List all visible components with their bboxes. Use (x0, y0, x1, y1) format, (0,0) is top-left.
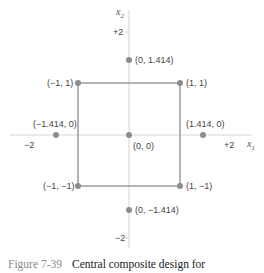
ccd-diagram (0, 0, 264, 273)
point-axial-left (53, 132, 59, 138)
label-corner-tl: (−1, 1) (47, 78, 73, 88)
point-corner-tr (177, 80, 183, 86)
tick-label-y-plus2: +2 (113, 27, 123, 37)
tick-label-y-minus2: −2 (115, 233, 125, 243)
x2-axis-label: x2 (116, 6, 124, 20)
label-axial-bottom: (0, −1.414) (135, 205, 179, 215)
caption-number: Figure 7-39 (8, 258, 62, 270)
point-axial-right (200, 132, 206, 138)
x1-axis-label: x1 (247, 138, 255, 152)
point-corner-bl (75, 183, 81, 189)
figure-caption: Figure 7-39Central composite design for (8, 258, 205, 270)
label-corner-tr: (1, 1) (186, 78, 207, 88)
tick-label-x-plus2: +2 (224, 140, 234, 150)
caption-text: Central composite design for (72, 258, 205, 270)
point-axial-bottom (126, 207, 132, 213)
label-axial-right: (1.414, 0) (186, 119, 225, 129)
tick-label-x-minus2: −2 (24, 140, 34, 150)
point-corner-tl (75, 80, 81, 86)
point-axial-top (126, 57, 132, 63)
point-center (126, 132, 132, 138)
label-center: (0, 0) (133, 141, 154, 151)
label-corner-br: (1, −1) (186, 181, 212, 191)
label-axial-top: (0, 1.414) (135, 55, 174, 65)
label-corner-bl: (−1, −1) (43, 181, 75, 191)
label-axial-left: (−1.414, 0) (33, 119, 77, 129)
point-corner-br (177, 183, 183, 189)
